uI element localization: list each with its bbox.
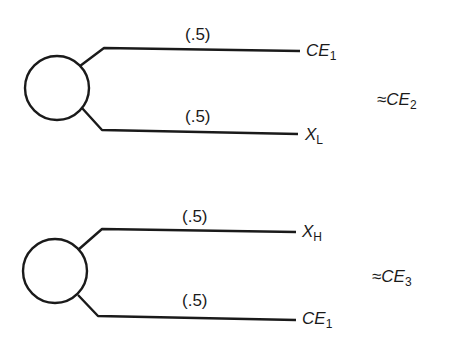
tree-1-lower-outcome: XL <box>305 126 323 143</box>
tree-1-equivalence: ≈CE2 <box>377 91 417 108</box>
outcome-subscript: L <box>316 133 323 147</box>
equivalence-main: CE <box>381 267 405 286</box>
tree-1-lines <box>25 48 300 134</box>
tree-2-upper-probability: (.5) <box>182 208 208 225</box>
outcome-main: CE <box>306 41 330 60</box>
tree-1-upper-probability: (.5) <box>185 26 211 43</box>
diagram-canvas <box>0 0 453 345</box>
outcome-main: X <box>305 125 316 144</box>
equivalence-main: CE <box>386 90 410 109</box>
tree-2-equivalence: ≈CE3 <box>372 268 412 285</box>
outcome-subscript: H <box>313 230 322 244</box>
equivalence-subscript: 2 <box>410 98 417 112</box>
tree-2-lower-probability: (.5) <box>182 292 208 309</box>
outcome-main: X <box>302 222 313 241</box>
outcome-subscript: 1 <box>326 317 333 331</box>
tree-2-lines <box>23 229 296 320</box>
outcome-subscript: 1 <box>330 49 337 63</box>
equivalence-subscript: 3 <box>405 275 412 289</box>
tree-1-upper-branch <box>80 48 300 66</box>
tree-1-upper-outcome: CE1 <box>306 42 336 59</box>
tree-2-upper-outcome: XH <box>302 223 322 240</box>
chance-node-1 <box>25 56 89 120</box>
approx-symbol: ≈ <box>377 90 386 109</box>
outcome-main: CE <box>302 309 326 328</box>
approx-symbol: ≈ <box>372 267 381 286</box>
tree-2-upper-branch <box>78 229 296 250</box>
tree-2-lower-outcome: CE1 <box>302 310 332 327</box>
chance-node-2 <box>23 239 87 303</box>
tree-1-lower-probability: (.5) <box>185 108 211 125</box>
